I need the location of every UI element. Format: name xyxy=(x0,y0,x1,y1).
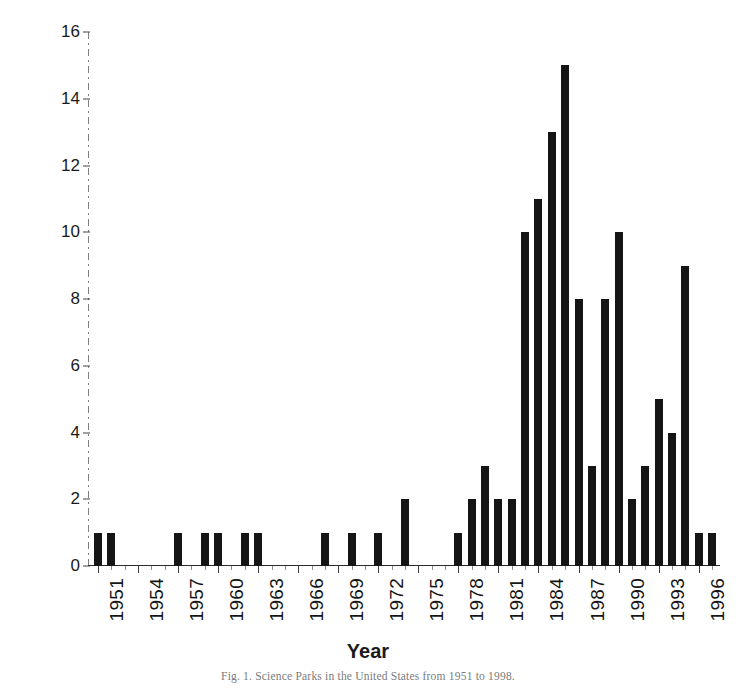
x-minor-tick xyxy=(432,566,433,570)
x-minor-tick xyxy=(552,566,553,570)
bar xyxy=(521,232,529,566)
y-tick-label: 14 xyxy=(61,89,80,109)
x-minor-tick xyxy=(151,566,152,570)
x-tick-label: 1963 xyxy=(266,578,288,621)
x-minor-tick xyxy=(672,566,673,570)
x-minor-tick xyxy=(392,566,393,570)
y-tick-mark xyxy=(83,165,90,166)
x-minor-tick xyxy=(191,566,192,570)
y-tick-mark xyxy=(83,98,90,99)
bar-group xyxy=(90,32,720,566)
bar xyxy=(401,499,409,566)
x-tick-mark xyxy=(659,566,660,573)
x-tick-mark xyxy=(298,566,299,573)
x-minor-tick xyxy=(285,566,286,570)
x-minor-tick xyxy=(272,566,273,570)
x-tick-mark xyxy=(579,566,580,573)
y-tick-label: 6 xyxy=(71,356,80,376)
x-tick-label: 1960 xyxy=(226,578,248,621)
x-minor-tick xyxy=(632,566,633,570)
x-tick-mark xyxy=(98,566,99,573)
bar xyxy=(575,299,583,566)
x-minor-tick xyxy=(125,566,126,570)
bar xyxy=(454,533,462,566)
x-tick-mark xyxy=(338,566,339,573)
x-tick-mark xyxy=(538,566,539,573)
bar xyxy=(481,466,489,566)
x-minor-tick xyxy=(525,566,526,570)
x-minor-tick xyxy=(205,566,206,570)
x-tick-mark xyxy=(218,566,219,573)
y-tick-label: 8 xyxy=(71,289,80,309)
bar xyxy=(348,533,356,566)
x-minor-tick xyxy=(592,566,593,570)
bar xyxy=(641,466,649,566)
y-tick-mark xyxy=(83,566,90,567)
bar xyxy=(107,533,115,566)
bar xyxy=(468,499,476,566)
x-minor-tick xyxy=(231,566,232,570)
x-tick-label: 1981 xyxy=(506,578,528,621)
x-tick-label: 1993 xyxy=(667,578,689,621)
bar xyxy=(601,299,609,566)
bar xyxy=(174,533,182,566)
x-tick-label: 1987 xyxy=(587,578,609,621)
bar xyxy=(214,533,222,566)
x-tick-mark xyxy=(458,566,459,573)
bar xyxy=(548,132,556,566)
x-minor-tick xyxy=(165,566,166,570)
x-tick-mark xyxy=(178,566,179,573)
bar xyxy=(708,533,716,566)
bar xyxy=(494,499,502,566)
x-tick-label: 1975 xyxy=(426,578,448,621)
x-minor-tick xyxy=(312,566,313,570)
bar xyxy=(508,499,516,566)
x-minor-tick xyxy=(472,566,473,570)
bar xyxy=(254,533,262,566)
y-tick-mark xyxy=(83,299,90,300)
bar xyxy=(321,533,329,566)
x-tick-mark xyxy=(619,566,620,573)
bar xyxy=(668,433,676,567)
x-minor-tick xyxy=(512,566,513,570)
bar xyxy=(94,533,102,566)
plot-area: 0246810121416 xyxy=(90,32,720,566)
x-tick-mark xyxy=(498,566,499,573)
x-minor-tick xyxy=(111,566,112,570)
bar xyxy=(615,232,623,566)
y-tick-label: 12 xyxy=(61,156,80,176)
x-minor-tick xyxy=(365,566,366,570)
x-minor-tick xyxy=(485,566,486,570)
x-tick-label: 1990 xyxy=(627,578,649,621)
figure-caption: Fig. 1. Science Parks in the United Stat… xyxy=(0,670,736,682)
x-minor-tick xyxy=(445,566,446,570)
x-minor-tick xyxy=(565,566,566,570)
y-tick-label: 10 xyxy=(61,222,80,242)
bar xyxy=(695,533,703,566)
y-tick-mark xyxy=(83,32,90,33)
x-minor-tick xyxy=(405,566,406,570)
x-tick-label: 1972 xyxy=(386,578,408,621)
x-minor-tick xyxy=(325,566,326,570)
y-tick-mark xyxy=(83,499,90,500)
x-tick-label: 1978 xyxy=(466,578,488,621)
bar xyxy=(655,399,663,566)
y-tick-label: 16 xyxy=(61,22,80,42)
x-tick-label: 1951 xyxy=(106,578,128,621)
bar xyxy=(561,65,569,566)
bar xyxy=(241,533,249,566)
bar xyxy=(681,266,689,566)
y-tick-label: 0 xyxy=(71,556,80,576)
bar xyxy=(374,533,382,566)
bar xyxy=(201,533,209,566)
x-tick-label: 1954 xyxy=(146,578,168,621)
x-tick-mark xyxy=(258,566,259,573)
bar xyxy=(588,466,596,566)
x-minor-tick xyxy=(645,566,646,570)
y-tick-mark xyxy=(83,365,90,366)
x-tick-mark xyxy=(418,566,419,573)
y-tick-label: 4 xyxy=(71,423,80,443)
x-axis-title: Year xyxy=(0,640,736,663)
x-tick-label: 1984 xyxy=(546,578,568,621)
x-minor-tick xyxy=(605,566,606,570)
